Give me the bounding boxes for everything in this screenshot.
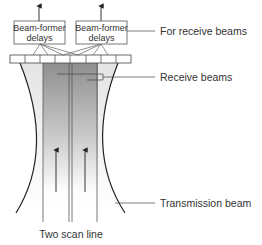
box-label-line1: Beam-former [13, 23, 66, 33]
label-for-receive-beams: For receive beams [160, 25, 247, 37]
beamformer-box-left: Beam-former delays [13, 21, 66, 44]
receive-beam-left [43, 63, 71, 193]
box-label-line2: delays [88, 33, 115, 43]
label-two-scan-line: Two scan line [39, 228, 103, 240]
box-label-line2: delays [26, 33, 53, 43]
label-transmission-beam: Transmission beam [160, 197, 251, 209]
box-label-line1: Beam-former [75, 23, 128, 33]
receive-beam-right [71, 63, 98, 193]
beamformer-box-right: Beam-former delays [75, 21, 128, 44]
delay-connections [33, 44, 108, 55]
beamforming-diagram: Beam-former delays Beam-former delays Fo… [0, 0, 262, 245]
transducer-array [10, 55, 131, 63]
label-receive-beams: Receive beams [160, 71, 232, 83]
